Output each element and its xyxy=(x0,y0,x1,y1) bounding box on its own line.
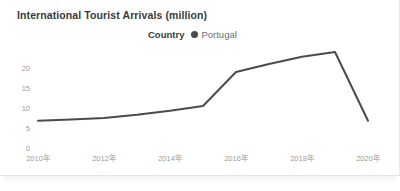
x-axis-tick-label: 2020年 xyxy=(342,152,394,163)
x-axis-tick-label: 2010年 xyxy=(12,152,64,163)
x-axis-tick-label: 2018年 xyxy=(276,152,328,163)
data-line xyxy=(38,52,368,121)
x-axis-tick-label: 2012年 xyxy=(78,152,130,163)
chart-container: International Tourist Arrivals (million)… xyxy=(0,0,400,191)
x-axis-tick-label: 2016年 xyxy=(210,152,262,163)
plot-area: 051015202010年2012年2014年2016年2018年2020年 xyxy=(0,0,400,191)
x-axis-tick-label: 2014年 xyxy=(144,152,196,163)
y-axis-tick-label: 20 xyxy=(8,64,30,73)
y-axis-tick-label: 10 xyxy=(8,104,30,113)
y-axis-tick-label: 5 xyxy=(8,124,30,133)
y-axis-tick-label: 15 xyxy=(8,84,30,93)
